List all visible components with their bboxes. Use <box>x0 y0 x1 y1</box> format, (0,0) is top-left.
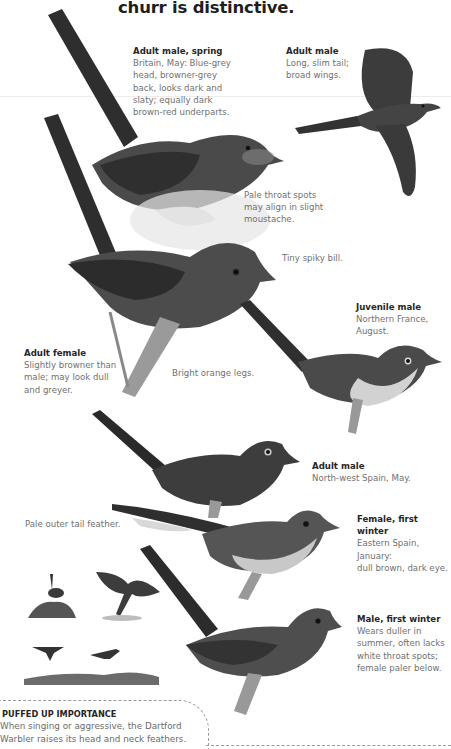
infobox-body: When singing or aggressive, the Dartford… <box>0 720 186 745</box>
caption-male-first-winter: Male, first winter Wears duller in summe… <box>357 613 445 674</box>
caption-adult-male-spring: Adult male, spring Britain, May: Blue-gr… <box>133 45 231 118</box>
caption-adult-male-flight: Adult male Long, slim tail; broad wings. <box>286 45 349 82</box>
note-bill: Tiny spiky bill. <box>282 252 343 264</box>
infobox-title: PUFFED UP IMPORTANCE <box>2 709 116 719</box>
note-legs: Bright orange legs. <box>172 367 254 379</box>
vignette-bird-displaying-wings <box>96 570 162 620</box>
vignette-birds-flying-over-heath <box>24 645 159 685</box>
caption-adult-male-spain: Adult male North-west Spain, May. <box>312 460 411 484</box>
note-tail-feather: Pale outer tail feather. <box>25 518 120 530</box>
caption-female-first-winter: Female, first winter Eastern Spain, Janu… <box>357 513 451 574</box>
bird-illustration-male-first-winter <box>138 545 343 720</box>
caption-juvenile-male: Juvenile male Northern France, August. <box>356 301 428 338</box>
vignette-bird-perched-on-bush <box>26 572 78 620</box>
bottom-dashed-rule <box>206 745 451 746</box>
note-throat-spots: Pale throat spots may align in slight mo… <box>244 189 323 226</box>
caption-adult-female: Adult female Slightly browner than male;… <box>24 347 116 396</box>
